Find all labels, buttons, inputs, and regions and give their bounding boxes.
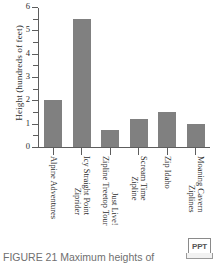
y-tick-label-2: 2 <box>26 94 30 105</box>
y-tick-6: 6 <box>32 7 38 8</box>
y-tick-3: 3 <box>32 77 38 78</box>
x-label-zip-idaho: Zip Idaho <box>163 156 172 189</box>
y-tick-label-3: 3 <box>26 71 30 82</box>
x-label-just-live-zipline-treetop-tour: Just Live! Zipline Treetop Tour <box>101 156 120 226</box>
x-tick-3 <box>138 148 139 155</box>
y-tick-minor-2-5 <box>33 89 38 90</box>
bar-alpine-adventures <box>44 100 62 147</box>
figure-caption: FIGURE 21 Maximum heights of <box>3 251 173 263</box>
x-tick-1 <box>81 148 82 155</box>
x-tick-4 <box>167 148 168 155</box>
bar-slot <box>96 8 125 147</box>
x-label-line1: Just Live! <box>111 192 120 225</box>
x-axis-ticks <box>39 148 210 155</box>
x-label-slot: Zip Idaho <box>153 156 182 240</box>
x-label-line2: Ziprider <box>72 156 81 215</box>
y-tick-0: 0 <box>32 147 38 148</box>
y-tick-minor-1-5 <box>33 112 38 113</box>
x-tick-slot <box>182 148 211 155</box>
y-tick-1: 1 <box>32 124 38 125</box>
y-tick-minor-4-5 <box>33 42 38 43</box>
x-label-line2: Ziplines <box>186 156 195 213</box>
y-tick-label-4: 4 <box>26 48 30 59</box>
x-axis-labels: Alpine Adventures Icy Straight Point Zip… <box>39 156 210 240</box>
y-tick-label-5: 5 <box>26 24 30 35</box>
y-tick-5: 5 <box>32 30 38 31</box>
x-label-line2: Zipline <box>129 156 138 200</box>
plot-area: 0 1 2 3 4 5 6 <box>38 8 210 148</box>
y-tick-2: 2 <box>32 100 38 101</box>
y-tick-4: 4 <box>32 54 38 55</box>
x-label-scream-time-zipline: Scream Time Zipline <box>129 156 148 200</box>
x-label-line1: Scream Time <box>139 156 148 200</box>
x-label-line1: Moaning Cavern <box>196 156 205 213</box>
x-tick-slot <box>68 148 97 155</box>
y-tick-label-6: 6 <box>26 1 30 12</box>
x-tick-slot <box>153 148 182 155</box>
x-tick-2 <box>110 148 111 155</box>
x-label-slot: Just Live! Zipline Treetop Tour <box>96 156 125 240</box>
bar-just-live-zipline-treetop-tour <box>101 130 119 148</box>
bar-moaning-cavern-ziplines <box>187 124 205 147</box>
ppt-slide-icon[interactable]: PPT <box>186 238 212 262</box>
bar-scream-time-zipline <box>130 119 148 147</box>
x-tick-slot <box>125 148 154 155</box>
bar-slot <box>182 8 211 147</box>
y-tick-label-0: 0 <box>26 141 30 152</box>
x-label-icy-straight-point-ziprider: Icy Straight Point Ziprider <box>72 156 91 215</box>
bar-slot <box>125 8 154 147</box>
ppt-badge-base <box>186 253 213 259</box>
bar-series <box>39 8 210 147</box>
ppt-badge-label: PPT <box>188 238 211 254</box>
y-tick-label-1: 1 <box>26 118 30 129</box>
y-tick-minor-0-5 <box>33 135 38 136</box>
x-tick-slot <box>96 148 125 155</box>
x-label-moaning-cavern-ziplines: Moaning Cavern Ziplines <box>186 156 205 213</box>
x-label-line2: Zipline Treetop Tour <box>101 156 110 226</box>
x-label-alpine-adventures: Alpine Adventures <box>49 156 58 219</box>
x-tick-5 <box>195 148 196 155</box>
bar-zip-idaho <box>158 112 176 147</box>
bar-slot <box>153 8 182 147</box>
bar-icy-straight-point-ziprider <box>73 19 91 147</box>
y-axis-title: Height (hundreds of feet) <box>14 8 24 138</box>
x-tick-slot <box>39 148 68 155</box>
figure-container: Height (hundreds of feet) 0 1 2 3 4 <box>0 0 218 265</box>
x-label-slot: Moaning Cavern Ziplines <box>182 156 211 240</box>
x-label-line1: Icy Straight Point <box>82 156 91 215</box>
x-tick-0 <box>53 148 54 155</box>
x-label-slot: Icy Straight Point Ziprider <box>68 156 97 240</box>
x-label-line1: Zip Idaho <box>163 156 172 189</box>
x-label-slot: Scream Time Zipline <box>125 156 154 240</box>
bar-slot <box>39 8 68 147</box>
bar-slot <box>68 8 97 147</box>
x-label-line1: Alpine Adventures <box>49 156 58 219</box>
y-tick-minor-5-5 <box>33 19 38 20</box>
y-tick-minor-3-5 <box>33 65 38 66</box>
x-label-slot: Alpine Adventures <box>39 156 68 240</box>
